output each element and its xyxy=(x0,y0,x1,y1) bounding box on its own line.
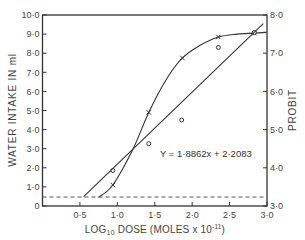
x-tick-label: 0·5 xyxy=(73,210,86,220)
circle-marker xyxy=(216,45,220,49)
x-axis-title-mid: DOSE (MOLES x 10 xyxy=(115,224,213,235)
x-axis-title-sub: 10 xyxy=(107,229,115,236)
y-tick-label: 4·0 xyxy=(26,125,39,135)
circle-marker xyxy=(147,142,151,146)
x-axis-title: LOG10 DOSE (MOLES x 10-11) xyxy=(85,223,225,236)
x-axis-title-post: ) xyxy=(222,224,226,235)
y-tick-label: 2·0 xyxy=(26,163,39,173)
y-tick-label: 9·0 xyxy=(26,29,39,39)
x-axis-ticks: 0·51·01·52·02·53·0 xyxy=(73,202,273,220)
y-axis-title: WATER INTAKE IN ml xyxy=(7,53,18,167)
x-tick-label: 1·0 xyxy=(111,210,124,220)
x-marker xyxy=(147,110,151,114)
x-axis-title-sup: -11 xyxy=(212,223,222,230)
x-tick-label: 2·0 xyxy=(186,210,199,220)
y2-tick-label: 5·0 xyxy=(270,125,283,135)
series-layer xyxy=(43,24,268,198)
y2-tick-label: 7·0 xyxy=(270,48,283,58)
plot-border xyxy=(43,15,268,206)
y-tick-label: 10·0 xyxy=(21,10,39,20)
y2-axis-title: PROBIT xyxy=(287,89,298,131)
y2-tick-label: 4·0 xyxy=(270,163,283,173)
y-tick-label: 6·0 xyxy=(26,87,39,97)
x-tick-label: 1·5 xyxy=(148,210,161,220)
y-tick-label: 3·0 xyxy=(26,144,39,154)
x-tick-label: 2·5 xyxy=(223,210,236,220)
plot-frame xyxy=(43,15,268,206)
y-tick-label: 1·0 xyxy=(26,182,39,192)
y-tick-label: 7·0 xyxy=(26,68,39,78)
y-tick-label: 8·0 xyxy=(26,48,39,58)
x-axis-title-pre: LOG xyxy=(85,224,107,235)
y2-tick-label: 3·0 xyxy=(270,201,283,211)
dose-response-chart: 0·51·01·52·02·53·0 01·02·03·04·05·06·07·… xyxy=(0,0,305,240)
regression-equation: Y = 1·8862x + 2·2083 xyxy=(160,148,252,159)
x-marker xyxy=(111,183,115,187)
y2-axis-ticks: 3·04·05·06·07·08·0 xyxy=(263,10,283,211)
probit-regression-line xyxy=(84,24,264,197)
y-tick-label: 5·0 xyxy=(26,106,39,116)
circle-marker xyxy=(180,118,184,122)
x-tick-label: 3·0 xyxy=(260,210,273,220)
y2-tick-label: 8·0 xyxy=(270,10,283,20)
x-marker xyxy=(180,56,184,60)
y2-tick-label: 6·0 xyxy=(270,87,283,97)
y-tick-label: 0 xyxy=(34,201,39,211)
